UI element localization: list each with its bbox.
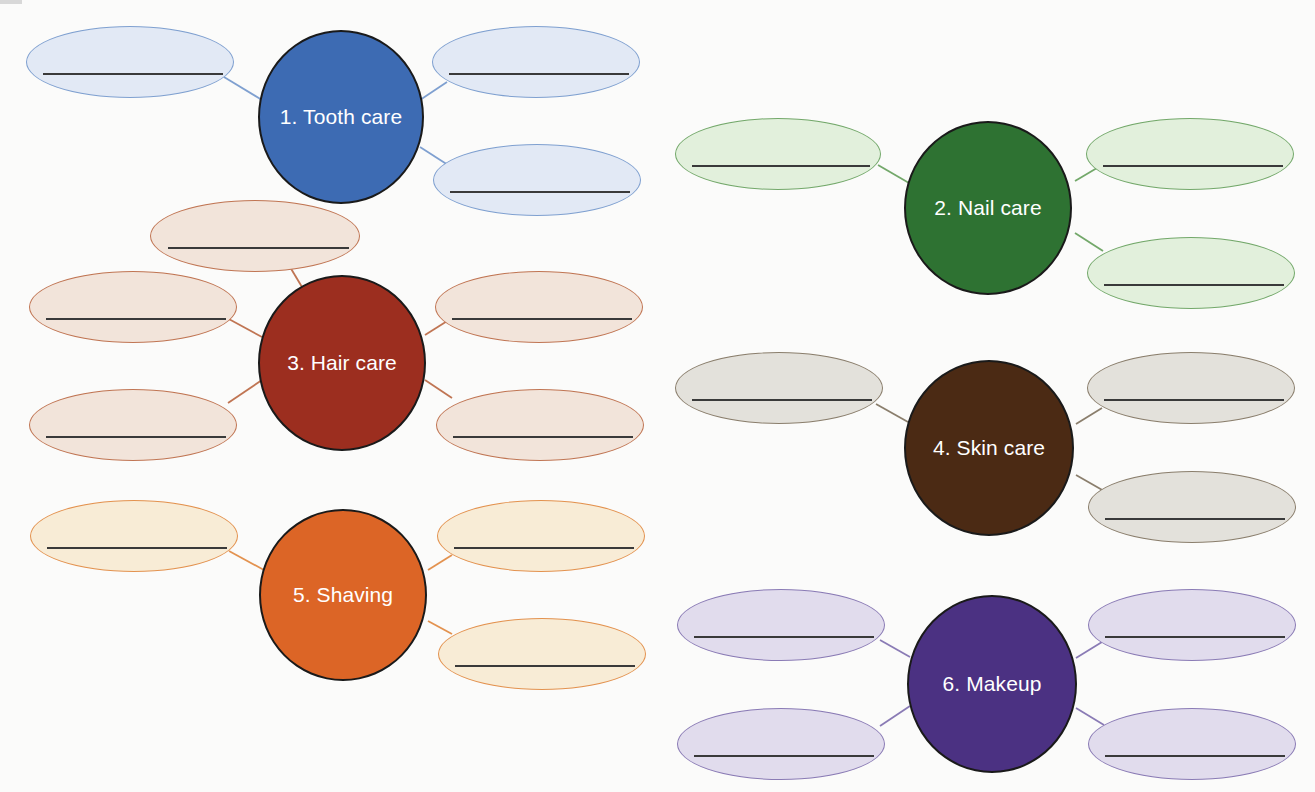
answer-blank-line[interactable] bbox=[694, 636, 873, 638]
answer-bubble-nail-care-1[interactable] bbox=[675, 118, 881, 190]
answer-bubble-shaving-3[interactable] bbox=[438, 618, 646, 690]
answer-blank-line[interactable] bbox=[450, 191, 629, 193]
topic-hub-nail-care: 2. Nail care bbox=[904, 121, 1072, 295]
answer-blank-line[interactable] bbox=[168, 247, 349, 249]
topic-label: 3. Hair care bbox=[287, 351, 397, 375]
topic-hub-hair-care: 3. Hair care bbox=[258, 275, 426, 451]
topic-hub-tooth-care: 1. Tooth care bbox=[258, 30, 424, 204]
answer-bubble-makeup-2[interactable] bbox=[1088, 589, 1296, 661]
answer-blank-line[interactable] bbox=[694, 755, 873, 757]
topic-label: 2. Nail care bbox=[934, 196, 1041, 220]
answer-bubble-hair-care-2[interactable] bbox=[29, 271, 237, 343]
answer-bubble-tooth-care-2[interactable] bbox=[432, 26, 640, 98]
topic-hub-makeup: 6. Makeup bbox=[907, 595, 1077, 773]
answer-blank-line[interactable] bbox=[692, 165, 870, 167]
answer-blank-line[interactable] bbox=[46, 436, 225, 438]
answer-bubble-makeup-3[interactable] bbox=[677, 708, 885, 780]
page-corner-mark bbox=[0, 0, 22, 4]
answer-bubble-nail-care-2[interactable] bbox=[1086, 118, 1294, 190]
answer-bubble-hair-care-1[interactable] bbox=[150, 200, 360, 272]
answer-blank-line[interactable] bbox=[455, 665, 634, 667]
answer-bubble-skin-care-1[interactable] bbox=[675, 352, 883, 424]
answer-blank-line[interactable] bbox=[453, 436, 632, 438]
answer-blank-line[interactable] bbox=[692, 399, 871, 401]
answer-bubble-shaving-2[interactable] bbox=[437, 500, 645, 572]
answer-bubble-hair-care-5[interactable] bbox=[436, 389, 644, 461]
topic-label: 4. Skin care bbox=[933, 436, 1045, 460]
answer-blank-line[interactable] bbox=[454, 547, 633, 549]
answer-blank-line[interactable] bbox=[449, 73, 628, 75]
answer-bubble-tooth-care-1[interactable] bbox=[26, 26, 234, 98]
answer-bubble-makeup-4[interactable] bbox=[1088, 708, 1296, 780]
answer-blank-line[interactable] bbox=[1105, 636, 1284, 638]
answer-bubble-tooth-care-3[interactable] bbox=[433, 144, 641, 216]
topic-label: 1. Tooth care bbox=[280, 105, 402, 129]
topic-hub-shaving: 5. Shaving bbox=[259, 509, 427, 681]
answer-bubble-nail-care-3[interactable] bbox=[1087, 237, 1295, 309]
answer-blank-line[interactable] bbox=[43, 73, 222, 75]
answer-blank-line[interactable] bbox=[1105, 755, 1284, 757]
answer-blank-line[interactable] bbox=[47, 547, 226, 549]
answer-bubble-makeup-1[interactable] bbox=[677, 589, 885, 661]
answer-bubble-hair-care-3[interactable] bbox=[435, 271, 643, 343]
answer-bubble-skin-care-3[interactable] bbox=[1088, 471, 1296, 543]
answer-blank-line[interactable] bbox=[1104, 399, 1283, 401]
topic-hub-skin-care: 4. Skin care bbox=[904, 360, 1074, 536]
answer-blank-line[interactable] bbox=[1105, 518, 1284, 520]
answer-bubble-hair-care-4[interactable] bbox=[29, 389, 237, 461]
answer-bubble-shaving-1[interactable] bbox=[30, 500, 238, 572]
answer-blank-line[interactable] bbox=[1104, 284, 1283, 286]
topic-label: 6. Makeup bbox=[943, 672, 1042, 696]
answer-blank-line[interactable] bbox=[46, 318, 225, 320]
answer-blank-line[interactable] bbox=[452, 318, 631, 320]
answer-bubble-skin-care-2[interactable] bbox=[1087, 352, 1295, 424]
topic-label: 5. Shaving bbox=[293, 583, 393, 607]
answer-blank-line[interactable] bbox=[1103, 165, 1282, 167]
